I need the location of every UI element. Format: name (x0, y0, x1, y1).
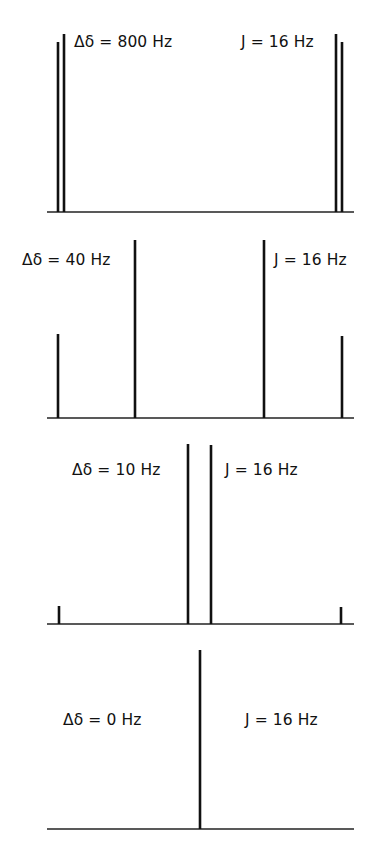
panel1-coupling-label: J = 16 Hz (241, 33, 314, 51)
spectrum-panel-4 (47, 650, 354, 829)
spectrum-panel-1 (47, 34, 354, 212)
panel3-coupling-label: J = 16 Hz (225, 461, 298, 479)
panel2-coupling-label: J = 16 Hz (274, 251, 347, 269)
panel1-delta-label: Δδ = 800 Hz (74, 33, 172, 51)
panel4-delta-label: Δδ = 0 Hz (63, 711, 141, 729)
panel2-delta-label: Δδ = 40 Hz (22, 251, 110, 269)
panel4-coupling-label: J = 16 Hz (245, 711, 318, 729)
panel3-delta-label: Δδ = 10 Hz (72, 461, 160, 479)
